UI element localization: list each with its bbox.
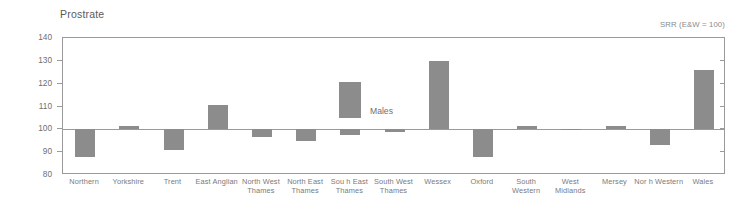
y-tick-mark (57, 151, 62, 152)
y-tick-mark-right (720, 128, 725, 129)
bar (119, 126, 139, 129)
y-tick-mark-right (720, 106, 725, 107)
plot-area: Males (62, 37, 725, 174)
bar (650, 129, 670, 145)
y-tick-label: 110 (18, 101, 52, 111)
legend-swatch-males (339, 82, 361, 118)
legend: Males (339, 82, 393, 118)
page-title: Prostrate (60, 8, 104, 20)
legend-label-males: Males (370, 106, 393, 116)
y-tick-label: 120 (18, 78, 52, 88)
y-tick-label: 140 (18, 32, 52, 42)
bar (561, 129, 581, 130)
y-tick-label: 130 (18, 55, 52, 65)
bar (385, 129, 405, 131)
y-tick-mark (57, 60, 62, 61)
bar (473, 129, 493, 156)
x-axis-labels: NorthernYorkshireTrentEast AnglianNorth … (62, 177, 725, 211)
y-tick-mark-right (720, 151, 725, 152)
chart-figure: Prostrate SRR (E&W = 100) Males 80901001… (0, 0, 735, 212)
y-tick-label: 90 (18, 146, 52, 156)
y-tick-mark-right (720, 83, 725, 84)
bar (694, 70, 714, 129)
x-tick-label: Wales (672, 177, 734, 186)
srr-annotation: SRR (E&W = 100) (660, 20, 725, 29)
bar-series-males (63, 38, 724, 173)
y-tick-mark (57, 83, 62, 84)
bar (252, 129, 272, 137)
bar (517, 126, 537, 129)
bar (429, 61, 449, 130)
y-tick-label: 100 (18, 123, 52, 133)
bar (296, 129, 316, 140)
bar (208, 105, 228, 129)
bar (606, 126, 626, 129)
y-tick-mark (57, 106, 62, 107)
bar (340, 129, 360, 135)
y-tick-label: 80 (18, 169, 52, 179)
bar (75, 129, 95, 156)
y-tick-mark-right (720, 60, 725, 61)
y-tick-mark (57, 128, 62, 129)
bar (164, 129, 184, 150)
